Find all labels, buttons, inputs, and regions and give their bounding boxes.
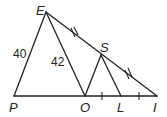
length-eo: 42 <box>51 55 65 69</box>
label-s: S <box>100 40 109 55</box>
label-p: P <box>9 100 18 115</box>
geometry-diagram: E P O L I S 40 42 <box>0 0 167 117</box>
segment-eo <box>46 12 85 96</box>
segment-so <box>85 55 101 96</box>
label-i: I <box>153 100 157 115</box>
label-l: L <box>117 100 124 115</box>
label-e: E <box>36 3 45 18</box>
label-o: O <box>80 100 90 115</box>
length-ep: 40 <box>13 47 27 61</box>
double-tick-si <box>125 68 132 79</box>
